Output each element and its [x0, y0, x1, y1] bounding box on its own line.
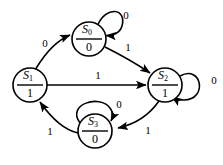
state-diagram: 0 0 1 1 0 1 0	[0, 0, 223, 165]
edge-path-s2-s3	[118, 101, 159, 128]
edge-label-s3-self: 0	[116, 98, 122, 110]
edge-label-s3-s1: 1	[47, 125, 53, 137]
transition-s1-to-s0: 0	[36, 35, 70, 69]
transition-s2-to-s3: 1	[118, 101, 159, 136]
edge-path-s1-s0	[36, 35, 70, 69]
transition-s1-to-s2: 1	[47, 69, 146, 85]
transition-s0-to-s2: 1	[105, 41, 150, 73]
edge-label-s1-s0: 0	[42, 37, 48, 49]
state-output-s0: 0	[86, 40, 92, 54]
edge-label-s0-s2: 1	[125, 41, 131, 53]
transition-s3-to-s1: 1	[40, 102, 78, 137]
state-node-s3[interactable]: S3 0	[78, 114, 112, 148]
edge-path-s3-s1	[40, 102, 78, 133]
state-node-s1[interactable]: S1 1	[13, 68, 47, 102]
state-output-s1: 1	[27, 86, 33, 100]
state-node-s0[interactable]: S0 0	[72, 22, 106, 56]
state-output-s3: 0	[92, 132, 98, 146]
state-output-s2: 1	[162, 86, 168, 100]
state-node-s2[interactable]: S2 1	[148, 68, 182, 102]
fsm-canvas: 0 0 1 1 0 1 0	[0, 0, 223, 165]
edge-label-s2-self: 0	[211, 74, 217, 86]
edge-label-s0-self: 0	[123, 9, 129, 21]
edge-label-s1-s2: 1	[95, 69, 101, 81]
edge-label-s2-s3: 1	[145, 124, 151, 136]
